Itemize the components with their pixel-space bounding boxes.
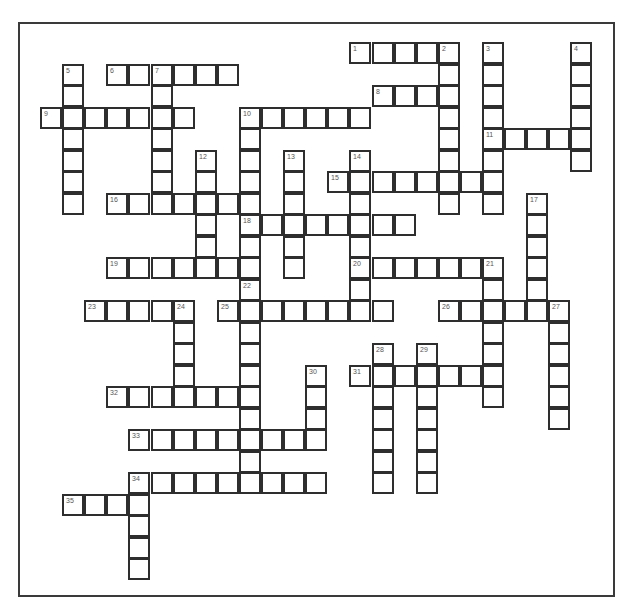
crossword-cell[interactable] bbox=[151, 386, 173, 408]
letter-input[interactable] bbox=[484, 195, 502, 213]
letter-input[interactable] bbox=[153, 66, 171, 84]
letter-input[interactable] bbox=[219, 66, 237, 84]
crossword-cell[interactable] bbox=[482, 64, 504, 86]
crossword-cell[interactable] bbox=[482, 300, 504, 322]
crossword-cell[interactable] bbox=[394, 171, 416, 193]
crossword-cell[interactable] bbox=[128, 64, 150, 86]
crossword-cell[interactable]: 19 bbox=[106, 257, 128, 279]
letter-input[interactable] bbox=[219, 259, 237, 277]
crossword-cell[interactable] bbox=[570, 150, 592, 172]
letter-input[interactable] bbox=[374, 367, 392, 385]
letter-input[interactable] bbox=[351, 281, 369, 299]
crossword-cell[interactable] bbox=[504, 300, 526, 322]
crossword-cell[interactable] bbox=[438, 64, 460, 86]
letter-input[interactable] bbox=[462, 367, 480, 385]
letter-input[interactable] bbox=[130, 109, 148, 127]
letter-input[interactable] bbox=[241, 173, 259, 191]
letter-input[interactable] bbox=[241, 109, 259, 127]
letter-input[interactable] bbox=[153, 474, 171, 492]
letter-input[interactable] bbox=[418, 87, 436, 105]
letter-input[interactable] bbox=[241, 259, 259, 277]
letter-input[interactable] bbox=[108, 302, 126, 320]
crossword-cell[interactable] bbox=[173, 64, 195, 86]
crossword-cell[interactable] bbox=[548, 408, 570, 430]
crossword-cell[interactable] bbox=[173, 472, 195, 494]
letter-input[interactable] bbox=[130, 560, 148, 578]
crossword-cell[interactable] bbox=[261, 107, 283, 129]
letter-input[interactable] bbox=[64, 66, 82, 84]
letter-input[interactable] bbox=[440, 173, 458, 191]
crossword-cell[interactable] bbox=[482, 322, 504, 344]
crossword-cell[interactable]: 29 bbox=[416, 343, 438, 365]
crossword-cell[interactable] bbox=[394, 42, 416, 64]
letter-input[interactable] bbox=[396, 216, 414, 234]
crossword-cell[interactable] bbox=[482, 343, 504, 365]
letter-input[interactable] bbox=[197, 66, 215, 84]
letter-input[interactable] bbox=[219, 195, 237, 213]
crossword-cell[interactable] bbox=[217, 257, 239, 279]
crossword-cell[interactable] bbox=[482, 279, 504, 301]
crossword-cell[interactable] bbox=[349, 214, 371, 236]
letter-input[interactable] bbox=[197, 388, 215, 406]
letter-input[interactable] bbox=[374, 410, 392, 428]
crossword-cell[interactable] bbox=[372, 386, 394, 408]
crossword-cell[interactable]: 17 bbox=[526, 193, 548, 215]
letter-input[interactable] bbox=[396, 173, 414, 191]
letter-input[interactable] bbox=[285, 431, 303, 449]
crossword-cell[interactable] bbox=[526, 279, 548, 301]
letter-input[interactable] bbox=[130, 259, 148, 277]
letter-input[interactable] bbox=[219, 431, 237, 449]
letter-input[interactable] bbox=[550, 388, 568, 406]
letter-input[interactable] bbox=[130, 431, 148, 449]
letter-input[interactable] bbox=[153, 152, 171, 170]
letter-input[interactable] bbox=[351, 44, 369, 62]
crossword-cell[interactable]: 32 bbox=[106, 386, 128, 408]
crossword-cell[interactable] bbox=[482, 365, 504, 387]
letter-input[interactable] bbox=[374, 388, 392, 406]
crossword-cell[interactable] bbox=[548, 322, 570, 344]
crossword-cell[interactable] bbox=[151, 107, 173, 129]
letter-input[interactable] bbox=[351, 216, 369, 234]
letter-input[interactable] bbox=[418, 259, 436, 277]
letter-input[interactable] bbox=[351, 152, 369, 170]
letter-input[interactable] bbox=[86, 302, 104, 320]
crossword-cell[interactable] bbox=[548, 343, 570, 365]
crossword-cell[interactable] bbox=[372, 365, 394, 387]
crossword-cell[interactable] bbox=[173, 257, 195, 279]
letter-input[interactable] bbox=[440, 302, 458, 320]
letter-input[interactable] bbox=[197, 152, 215, 170]
crossword-cell[interactable] bbox=[173, 193, 195, 215]
crossword-cell[interactable] bbox=[548, 365, 570, 387]
crossword-cell[interactable]: 5 bbox=[62, 64, 84, 86]
crossword-cell[interactable] bbox=[239, 236, 261, 258]
crossword-cell[interactable] bbox=[261, 429, 283, 451]
crossword-cell[interactable] bbox=[283, 472, 305, 494]
crossword-cell[interactable] bbox=[349, 107, 371, 129]
letter-input[interactable] bbox=[351, 173, 369, 191]
crossword-cell[interactable] bbox=[349, 300, 371, 322]
letter-input[interactable] bbox=[396, 367, 414, 385]
crossword-cell[interactable] bbox=[372, 408, 394, 430]
letter-input[interactable] bbox=[418, 44, 436, 62]
letter-input[interactable] bbox=[462, 173, 480, 191]
letter-input[interactable] bbox=[64, 195, 82, 213]
crossword-cell[interactable] bbox=[283, 236, 305, 258]
crossword-cell[interactable] bbox=[106, 494, 128, 516]
crossword-cell[interactable]: 2 bbox=[438, 42, 460, 64]
crossword-cell[interactable] bbox=[438, 85, 460, 107]
crossword-cell[interactable] bbox=[570, 85, 592, 107]
letter-input[interactable] bbox=[484, 367, 502, 385]
letter-input[interactable] bbox=[550, 302, 568, 320]
crossword-cell[interactable] bbox=[416, 257, 438, 279]
letter-input[interactable] bbox=[550, 367, 568, 385]
letter-input[interactable] bbox=[418, 388, 436, 406]
crossword-cell[interactable]: 18 bbox=[239, 214, 261, 236]
letter-input[interactable] bbox=[374, 87, 392, 105]
crossword-cell[interactable] bbox=[416, 408, 438, 430]
crossword-cell[interactable] bbox=[217, 193, 239, 215]
letter-input[interactable] bbox=[374, 216, 392, 234]
crossword-cell[interactable] bbox=[173, 322, 195, 344]
letter-input[interactable] bbox=[197, 216, 215, 234]
crossword-cell[interactable] bbox=[195, 214, 217, 236]
crossword-cell[interactable] bbox=[372, 451, 394, 473]
